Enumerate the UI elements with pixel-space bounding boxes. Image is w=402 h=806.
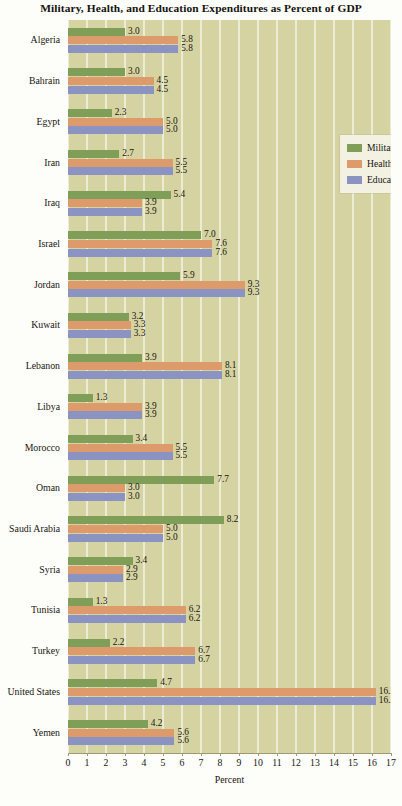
bar-military <box>68 150 119 158</box>
bar-health <box>68 403 142 411</box>
category-axis-labels: AlgeriaBahrainEgyptIranIraqIsraelJordanK… <box>0 20 64 753</box>
bar-military <box>68 679 157 687</box>
bar-health <box>68 240 212 248</box>
tick-mark <box>201 753 202 756</box>
bar-value-label: 5.9 <box>183 271 195 280</box>
tick-mark <box>258 753 259 756</box>
bar-value-label: 5.0 <box>166 125 178 134</box>
category-label: Libya <box>0 402 60 412</box>
bar-value-label: 5.8 <box>181 44 193 53</box>
bar-value-label: 3.0 <box>128 492 140 501</box>
bar-military <box>68 313 129 321</box>
legend-item-military: Military <box>347 141 391 154</box>
tick-mark <box>239 753 240 756</box>
tick-mark <box>182 753 183 756</box>
bar-health <box>68 688 376 696</box>
chart-page: Military, Health, and Education Expendit… <box>0 0 402 806</box>
category-label: Saudi Arabia <box>0 524 60 534</box>
bar-military <box>68 435 133 443</box>
bar-value-label: 7.0 <box>204 230 216 239</box>
tick-mark <box>353 753 354 756</box>
tick-label: 17 <box>380 757 402 768</box>
category-label: Iran <box>0 158 60 168</box>
tick-mark <box>315 753 316 756</box>
bar-education <box>68 697 376 705</box>
tick-mark <box>391 753 392 756</box>
bar-value-label: 8.1 <box>225 370 237 379</box>
bar-health <box>68 281 245 289</box>
bar-education <box>68 371 222 379</box>
bar-education <box>68 615 186 623</box>
bar-health <box>68 159 173 167</box>
tick-mark <box>296 753 297 756</box>
category-label: Morocco <box>0 443 60 453</box>
bar-value-label: 5.6 <box>177 736 189 745</box>
bar-education <box>68 452 173 460</box>
bar-education <box>68 289 245 297</box>
x-axis-title: Percent <box>68 774 391 785</box>
bar-group: 3.04.54.5 <box>68 61 391 102</box>
bar-education <box>68 249 212 257</box>
bar-value-label: 5.4 <box>174 190 186 199</box>
bar-education <box>68 167 173 175</box>
bar-military <box>68 598 93 606</box>
bar-value-label: 7.7 <box>217 475 229 484</box>
bar-value-label: 5.5 <box>176 451 188 460</box>
tick-mark <box>87 753 88 756</box>
bar-military <box>68 231 201 239</box>
category-label: Egypt <box>0 117 60 127</box>
category-label: Oman <box>0 483 60 493</box>
bar-health <box>68 36 178 44</box>
bar-group: 5.99.39.3 <box>68 264 391 305</box>
legend: MilitaryHealthEducation <box>340 135 391 193</box>
legend-item-education: Education <box>347 173 391 186</box>
bar-military <box>68 354 142 362</box>
bar-group: 3.98.18.1 <box>68 346 391 387</box>
legend-swatch-icon <box>347 144 362 152</box>
bar-health <box>68 77 154 85</box>
category-label: Iraq <box>0 198 60 208</box>
bar-value-label: 1.3 <box>96 597 108 606</box>
bar-value-label: 2.9 <box>126 573 138 582</box>
bar-military <box>68 109 112 117</box>
bar-value-label: 3.9 <box>145 353 157 362</box>
bar-education <box>68 656 195 664</box>
category-label: Algeria <box>0 35 60 45</box>
category-label: Syria <box>0 565 60 575</box>
category-label: Israel <box>0 239 60 249</box>
bar-value-label: 9.3 <box>248 288 260 297</box>
bar-group: 4.716.216.2 <box>68 672 391 713</box>
bar-education <box>68 493 125 501</box>
bar-health <box>68 729 174 737</box>
bar-group: 3.05.85.8 <box>68 20 391 61</box>
bar-value-label: 2.3 <box>115 108 127 117</box>
tick-mark <box>220 753 221 756</box>
bar-military <box>68 516 224 524</box>
legend-swatch-icon <box>347 176 362 184</box>
legend-label: Health <box>367 159 391 169</box>
category-label: United States <box>0 687 60 697</box>
bar-military <box>68 394 93 402</box>
axis-line <box>68 753 391 754</box>
bar-health <box>68 118 163 126</box>
bar-value-label: 6.7 <box>198 655 210 664</box>
bar-health <box>68 647 195 655</box>
bar-value-label: 2.7 <box>122 149 134 158</box>
tick-mark <box>163 753 164 756</box>
bar-health <box>68 321 131 329</box>
bar-health <box>68 199 142 207</box>
bar-education <box>68 330 131 338</box>
bar-education <box>68 45 178 53</box>
bar-military <box>68 639 110 647</box>
bar-military <box>68 68 125 76</box>
bar-health <box>68 606 186 614</box>
bar-value-label: 7.6 <box>215 248 227 257</box>
legend-label: Education <box>367 175 391 185</box>
tick-mark <box>277 753 278 756</box>
bar-value-label: 3.4 <box>136 434 148 443</box>
legend-label: Military <box>367 143 391 153</box>
bar-value-label: 3.0 <box>128 67 140 76</box>
x-axis: 01234567891011121314151617 <box>68 753 391 775</box>
tick-mark <box>68 753 69 756</box>
category-label: Tunisia <box>0 605 60 615</box>
